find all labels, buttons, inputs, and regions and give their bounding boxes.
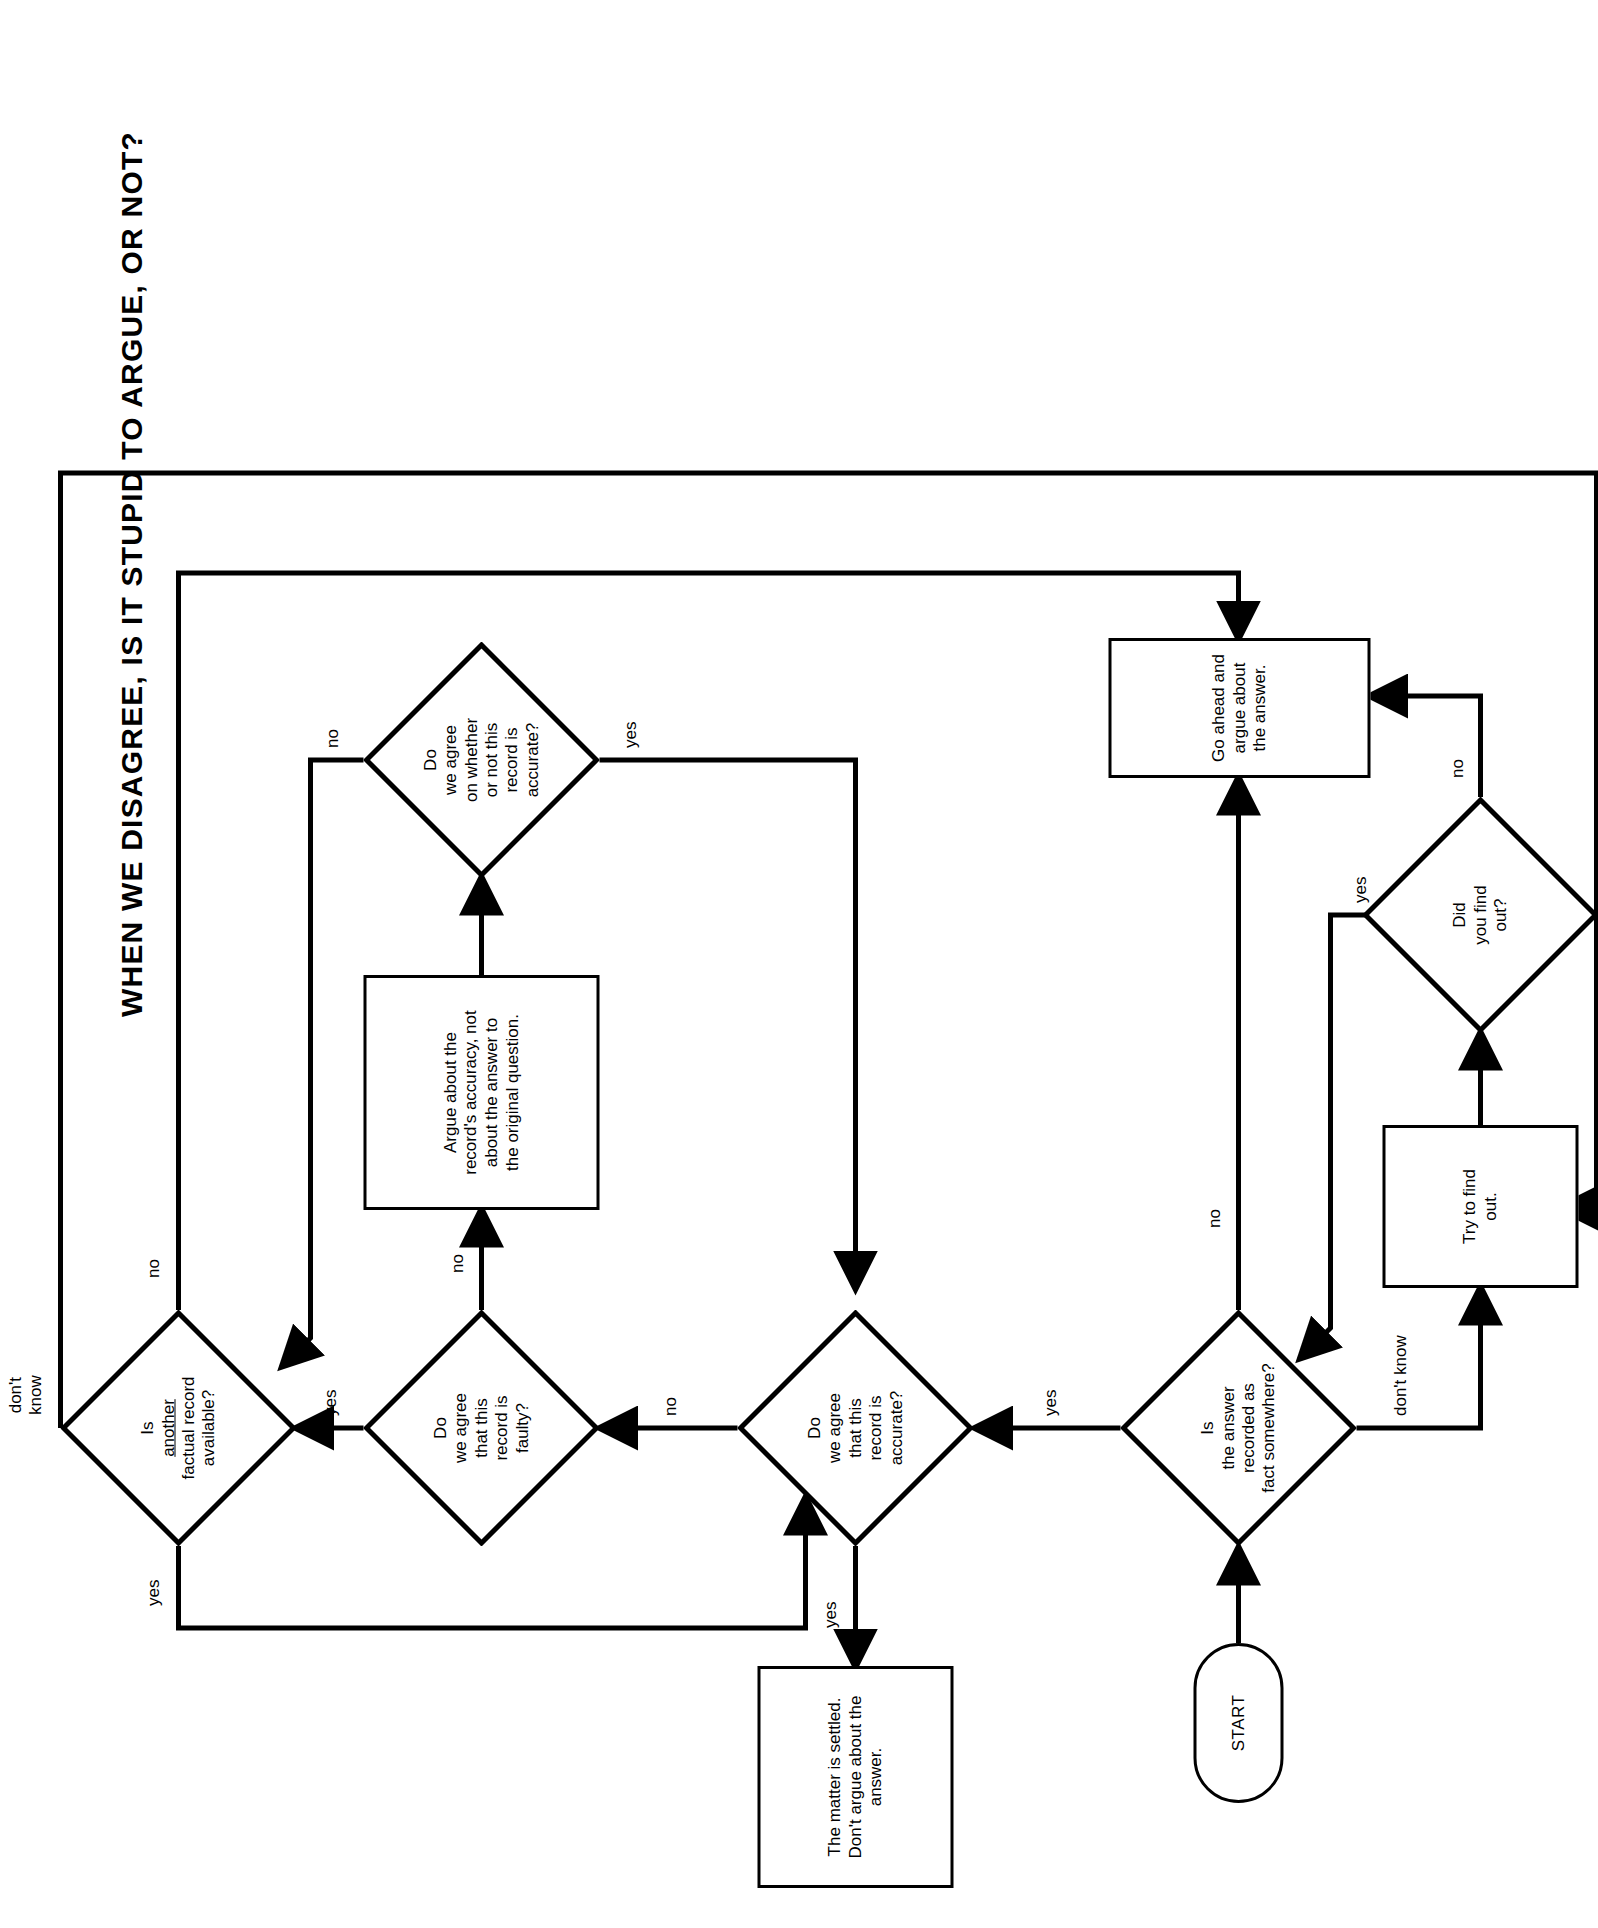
edge-label-accurate-no: no [660,1397,680,1416]
label-line: Don't argue about the [845,1696,866,1859]
label-line: available? [198,1377,218,1480]
edge-label-another-yes: yes [143,1580,163,1606]
node-matter-is-settled-label: The matter is settled. Don't argue about… [824,1696,886,1859]
edge-label-whether-no: no [322,729,342,748]
label-line: record is [865,1391,885,1466]
node-start-label: START [1228,1695,1249,1752]
label-line: that this [845,1391,865,1466]
label-line: accurate? [522,718,542,802]
edge-label-faulty-yes: yes [320,1390,340,1416]
edge-label-recorded-dontknow: don't know [1390,1335,1410,1416]
node-do-we-agree-record-faulty-label: Do we agree that this record is faulty? [430,1387,532,1469]
node-did-you-find-out[interactable]: Did you find out? [1362,797,1598,1033]
node-do-we-agree-record-accurate-label: Do we agree that this record is accurate… [804,1385,906,1472]
edge-label-recorded-no: no [1204,1209,1224,1228]
label-line: record is [501,718,521,802]
label-line: Argue about the [440,1010,461,1175]
node-do-we-agree-record-faulty[interactable]: Do we agree that this record is faulty? [363,1310,599,1546]
label-line: Do [420,718,440,802]
label-line: Is [1197,1363,1217,1492]
label-line: record is [491,1393,511,1463]
label-line: we agree [440,718,460,802]
node-is-another-factual-record[interactable]: Is another factual record available? [60,1310,296,1546]
label-line: that this [471,1393,491,1463]
label-line: record's accuracy, not [460,1010,481,1175]
label-line-underlined: another [158,1377,178,1480]
node-do-we-agree-whether-accurate-label: Do we agree on whether or not this recor… [420,712,542,808]
edge-label-whether-yes: yes [620,722,640,748]
node-do-we-agree-record-accurate[interactable]: Do we agree that this record is accurate… [737,1310,973,1546]
node-is-another-factual-record-label: Is another factual record available? [137,1371,219,1486]
edge-label-another-dontknow: don't know [5,1375,44,1415]
node-did-you-find-out-label: Did you find out? [1449,879,1510,951]
node-do-we-agree-whether-accurate[interactable]: Do we agree on whether or not this recor… [363,642,599,878]
label-line: or not this [481,718,501,802]
edge-label-faulty-no: no [447,1254,467,1273]
edge-recorded-dontknow [1356,1288,1480,1428]
node-go-ahead-and-argue-label: Go ahead and argue about the answer. [1208,654,1270,762]
edge-label-accurate-yes: yes [820,1602,840,1628]
node-start[interactable]: START [1193,1643,1283,1803]
node-try-to-find-out[interactable]: Try to find out. [1382,1125,1578,1288]
edge-whether-no [282,760,363,1366]
node-argue-about-record-accuracy-label: Argue about the record's accuracy, not a… [440,1010,523,1175]
node-try-to-find-out-label: Try to find out. [1459,1169,1500,1244]
node-matter-is-settled[interactable]: The matter is settled. Don't argue about… [757,1666,953,1888]
label-line: the original question. [502,1010,523,1175]
label-line: we agree [824,1391,844,1466]
label-line: out? [1490,885,1510,945]
edge-didfind-no [1370,696,1480,797]
edge-whether-yes [599,760,855,1288]
label-line: answer. [865,1696,886,1859]
edge-label-didfind-yes: yes [1350,877,1370,903]
label-line: out. [1480,1169,1501,1244]
label-line: on whether [461,718,481,802]
label-line: faulty? [512,1393,532,1463]
node-go-ahead-and-argue[interactable]: Go ahead and argue about the answer. [1108,638,1370,778]
label-line: argue about [1229,654,1250,762]
label-line: accurate? [886,1391,906,1466]
label-line: Is [137,1377,157,1480]
label-line: the answer [1218,1363,1238,1492]
label-line: we agree [450,1393,470,1463]
label-line: Do [430,1393,450,1463]
node-is-answer-recorded-label: Is the answer recorded as fact somewhere… [1197,1357,1279,1498]
label-line: Go ahead and [1208,654,1229,762]
label-line: you find [1470,885,1490,945]
node-is-answer-recorded[interactable]: Is the answer recorded as fact somewhere… [1120,1310,1356,1546]
label-line: recorded as [1238,1363,1258,1492]
label-line: fact somewhere? [1258,1363,1278,1492]
edge-another-no [178,573,1238,1310]
label-line: Try to find [1459,1169,1480,1244]
label-line: factual record [178,1377,198,1480]
edge-label-didfind-no: no [1447,759,1467,778]
label-line: Did [1449,885,1469,945]
node-argue-about-record-accuracy[interactable]: Argue about the record's accuracy, not a… [363,975,599,1210]
label-line: the answer. [1249,654,1270,762]
page-title: WHEN WE DISAGREE, IS IT STUPID TO ARGUE,… [115,217,149,1017]
label-line: The matter is settled. [824,1696,845,1859]
edge-label-another-no: no [143,1259,163,1278]
label-line: about the answer to [481,1010,502,1175]
edge-label-recorded-yes: yes [1040,1390,1060,1416]
label-line: Do [804,1391,824,1466]
